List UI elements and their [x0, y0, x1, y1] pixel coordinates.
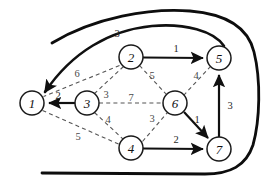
- node-3[interactable]: 3: [75, 91, 99, 115]
- edge-4-7: [143, 149, 203, 150]
- weight-label-2-5: 1: [173, 43, 178, 54]
- edge-4-6: [143, 113, 168, 142]
- node-5[interactable]: 5: [207, 46, 231, 70]
- node-5-label: 5: [216, 51, 223, 66]
- node-3-label: 3: [83, 96, 91, 111]
- node-7[interactable]: 7: [207, 137, 231, 161]
- node-1[interactable]: 1: [20, 91, 44, 115]
- node-2[interactable]: 2: [119, 45, 143, 69]
- weight-label-3-4: 4: [105, 114, 111, 125]
- weight-label-4-6: 3: [149, 113, 154, 124]
- graph-canvas: 1 2 3 4 5 6 7: [0, 0, 265, 188]
- edge-2-5: [143, 58, 203, 59]
- node-4[interactable]: 4: [119, 136, 143, 160]
- edge-2-3: [95, 67, 124, 94]
- weight-label-5-1: 3: [114, 28, 119, 39]
- weight-label-3-6: 7: [128, 92, 133, 103]
- node-4-label: 4: [128, 141, 135, 156]
- weight-label-2-3: 3: [103, 89, 108, 100]
- node-7-label: 7: [216, 142, 223, 157]
- weight-label-7-5: 3: [227, 100, 232, 111]
- edge-weight-labels: 2 1 2 1 3 3 6 3 5 4 7 4 3 5: [55, 28, 232, 145]
- node-2-label: 2: [128, 50, 135, 65]
- graph-figure: 1 2 3 4 5 6 7: [0, 0, 265, 188]
- node-1-label: 1: [29, 96, 36, 111]
- weight-label-6-5: 4: [193, 70, 199, 81]
- node-6-label: 6: [172, 96, 179, 111]
- weight-label-2-1: 6: [74, 68, 79, 79]
- weight-label-3-1: 2: [55, 90, 60, 101]
- weight-label-2-6: 5: [149, 70, 154, 81]
- weight-label-1-4: 5: [75, 131, 80, 142]
- node-6[interactable]: 6: [163, 91, 187, 115]
- weight-label-4-7: 2: [173, 134, 178, 145]
- weight-label-6-7: 1: [194, 114, 199, 125]
